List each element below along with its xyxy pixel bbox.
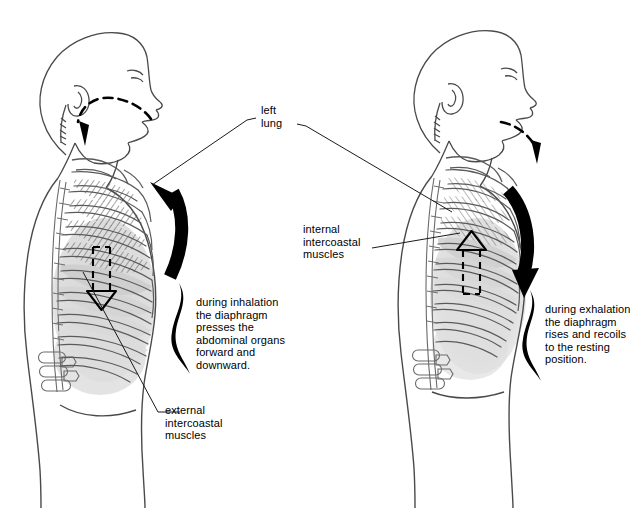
left-chest-arrow-up	[150, 182, 182, 277]
label-left-lung: left lung	[261, 104, 282, 129]
caption-exhalation: during exhalation the diaphragm rises an…	[545, 303, 630, 366]
right-lumbar-vertebrae	[413, 350, 454, 389]
right-airflow-arrow	[501, 122, 541, 164]
left-lung-leader-lines	[152, 118, 452, 212]
left-head-outline	[40, 33, 162, 188]
left-caption-brace	[171, 283, 190, 374]
caption-inhalation: during inhalation the diaphragm presses …	[196, 296, 285, 372]
right-figure-exhalation	[398, 31, 541, 508]
right-head-outline	[414, 31, 536, 186]
left-intercostal-muscles	[58, 180, 152, 359]
diagram-canvas: left lung internal intercoastal muscles …	[0, 0, 641, 512]
label-internal-intercostal-muscles: internal intercoastal muscles	[303, 223, 360, 261]
label-external-intercostal-muscles: external intercoastal muscles	[165, 404, 222, 442]
